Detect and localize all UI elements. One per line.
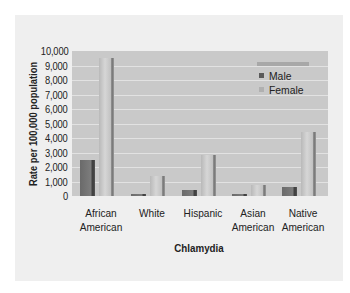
legend-item-female: Female xyxy=(259,84,307,96)
x-category-label: AsianAmerican xyxy=(232,206,275,234)
y-tick-label: 4,000 xyxy=(45,132,68,144)
y-axis-label: Rate per 100,000 population xyxy=(27,62,39,186)
y-tick-label: 7,000 xyxy=(45,89,68,101)
x-category-label: Hispanic xyxy=(184,206,223,220)
bar-male xyxy=(182,190,197,196)
bar-male xyxy=(80,160,95,196)
bar-female xyxy=(251,185,266,196)
x-category-label: AfricanAmerican xyxy=(80,206,123,234)
legend-header-bar xyxy=(257,62,309,66)
y-tick-label: 1,000 xyxy=(45,176,68,188)
bar-male xyxy=(131,194,146,196)
legend-label-female: Female xyxy=(269,84,304,96)
bar-male xyxy=(282,187,297,196)
legend-item-male: Male xyxy=(259,70,294,82)
legend-label-male: Male xyxy=(269,70,291,82)
y-tick-label: 2,000 xyxy=(45,161,68,173)
y-tick-label: 10,000 xyxy=(40,45,68,57)
y-tick-label: 9,000 xyxy=(45,60,68,72)
bar-male xyxy=(232,194,247,196)
bar-female xyxy=(150,176,165,196)
x-axis-title: Chlamydia xyxy=(174,242,223,254)
bar-female xyxy=(301,132,316,196)
bar-female xyxy=(201,155,216,196)
y-tick-label: 8,000 xyxy=(45,74,68,86)
y-tick-label: 5,000 xyxy=(45,118,68,130)
x-category-label: White xyxy=(139,206,165,220)
y-tick-label: 0 xyxy=(63,190,68,202)
legend: Male Female xyxy=(255,58,310,96)
y-tick-label: 3,000 xyxy=(45,147,68,159)
female-swatch-icon xyxy=(259,87,264,92)
y-tick-label: 6,000 xyxy=(45,103,68,115)
bar-female xyxy=(99,58,114,196)
x-category-label: NativeAmerican xyxy=(282,206,325,234)
male-swatch-icon xyxy=(259,73,264,78)
